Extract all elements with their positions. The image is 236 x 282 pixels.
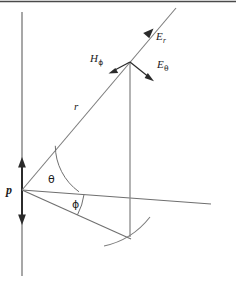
e-radial-symbol: E: [156, 30, 163, 42]
e-theta-subscript: θ: [164, 64, 169, 73]
polar-angle-label: θ: [48, 174, 55, 185]
equatorial-plane-arc: [104, 217, 150, 246]
e-theta-vector-arrow: [130, 62, 154, 81]
dipole-radiation-diagram: [0, 0, 236, 282]
h-phi-symbol: H: [90, 52, 98, 64]
h-phi-label: Hϕ: [90, 53, 103, 64]
h-phi-subscript: ϕ: [98, 58, 103, 67]
figure-container: p r θ ϕ Er Eθ Hϕ: [0, 0, 236, 282]
horizontal-reference-ray: [22, 190, 211, 204]
h-phi-vector-arrow: [109, 62, 131, 73]
dipole-moment-label: p: [6, 184, 12, 196]
theta-angle-arc: [55, 146, 79, 192]
e-theta-symbol: E: [157, 58, 164, 70]
azimuth-angle-label: ϕ: [72, 199, 79, 210]
e-theta-label: Eθ: [157, 59, 168, 70]
e-radial-label: Er: [156, 31, 166, 42]
radial-ray-line: [22, 8, 176, 190]
radius-label: r: [74, 101, 78, 112]
e-radial-subscript: r: [163, 36, 166, 45]
